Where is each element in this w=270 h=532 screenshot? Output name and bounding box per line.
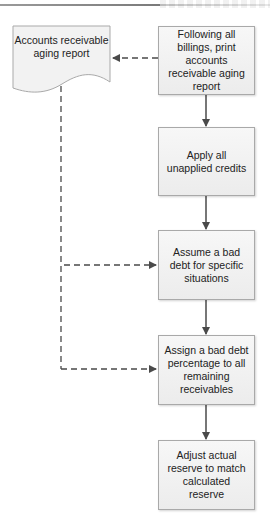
step-box-assign-bad-debt-percentage: Assign a bad debt percentage to all rema… <box>158 335 255 405</box>
step-label: Assume a bad debt for specific situation… <box>164 246 249 285</box>
step-box-assume-bad-debt: Assume a bad debt for specific situation… <box>158 230 255 300</box>
step-box-print-aging-report: Following all billings, print accounts r… <box>158 26 255 95</box>
step-label: Assign a bad debt percentage to all rema… <box>164 344 249 396</box>
step-box-apply-credits: Apply all unapplied credits <box>158 127 255 196</box>
document-label: Accounts receivable aging report <box>13 34 110 60</box>
step-label: Adjust actual reserve to match calculate… <box>164 449 249 501</box>
step-label: Following all billings, print accounts r… <box>164 28 249 93</box>
step-label: Apply all unapplied credits <box>164 149 249 175</box>
step-box-adjust-reserve: Adjust actual reserve to match calculate… <box>158 440 255 510</box>
